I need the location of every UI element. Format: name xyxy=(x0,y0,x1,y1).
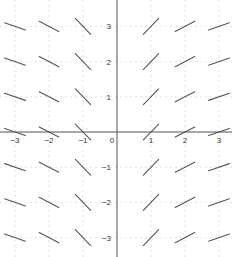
slope-segment xyxy=(5,93,26,100)
y-tick-label: −2 xyxy=(102,198,112,207)
y-tick-label: 1 xyxy=(107,93,112,102)
slope-segment xyxy=(5,23,26,30)
y-tick-label: 2 xyxy=(107,58,112,67)
x-tick-label: 3 xyxy=(217,136,222,145)
slope-segment xyxy=(5,164,26,171)
slope-segment xyxy=(5,58,26,65)
x-tick-label: −3 xyxy=(10,136,20,145)
x-tick-label: 2 xyxy=(183,136,188,145)
slope-segment xyxy=(5,199,26,206)
x-tick-label: 1 xyxy=(149,136,154,145)
x-tick-label: −1 xyxy=(78,136,88,145)
axes xyxy=(0,0,232,257)
y-tick-label: 3 xyxy=(107,22,112,31)
grid-lines xyxy=(0,0,232,257)
x-tick-label: −2 xyxy=(44,136,54,145)
slope-field-plot: −3−2−10123−3−2−1123 xyxy=(0,0,232,257)
y-tick-label: −3 xyxy=(102,234,112,243)
slope-segment xyxy=(75,230,90,246)
y-tick-label: −1 xyxy=(102,163,112,172)
x-tick-label: 0 xyxy=(110,136,115,145)
